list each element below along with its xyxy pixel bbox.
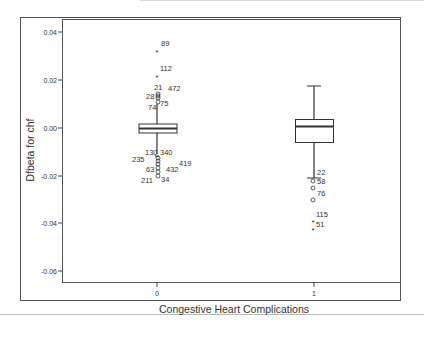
y-tick-label: -0.02 — [41, 173, 57, 180]
case-label: 63 — [146, 165, 154, 174]
case-label: 74 — [148, 103, 156, 112]
case-label: 472 — [168, 84, 181, 93]
y-tick-label: -0.04 — [41, 220, 57, 227]
case-label: 58 — [317, 177, 325, 186]
case-label: 34 — [161, 175, 169, 184]
y-tick-label: 0.04 — [43, 29, 57, 36]
y-tick-label: 0.02 — [43, 77, 57, 84]
case-label: 22 — [317, 168, 325, 177]
case-label: 432 — [166, 165, 179, 174]
boxplot-group-1 — [296, 86, 334, 178]
y-tick-label: -0.06 — [41, 268, 57, 275]
case-label: 76 — [317, 189, 325, 198]
case-labels-group-0: 89 112 21 472 28 74 75 130 340 235 419 6… — [132, 39, 192, 185]
case-label: 419 — [179, 159, 192, 168]
case-label: 51 — [316, 220, 324, 229]
y-axis-title: Dfbeta for chf — [24, 118, 36, 181]
case-label: 235 — [132, 155, 145, 164]
case-label: 28 — [146, 92, 154, 101]
case-label: 115 — [316, 210, 328, 219]
case-label: 340 — [160, 148, 173, 157]
outliers-group-1: * * — [311, 179, 315, 235]
case-label: 112 — [160, 64, 172, 73]
x-tick-label: 0 — [155, 290, 159, 297]
iqr-box — [296, 120, 334, 143]
y-tick-label: 0.00 — [43, 125, 57, 132]
extreme-marker: * — [155, 73, 158, 82]
y-tick-labels: 0.04 0.02 0.00 -0.02 -0.04 -0.06 — [41, 29, 57, 275]
chart-frame — [21, 18, 401, 301]
extreme-marker: * — [155, 48, 158, 57]
case-label: 130 — [145, 148, 158, 157]
case-label: 89 — [161, 39, 169, 48]
case-labels-group-1: 22 58 76 115 51 — [316, 168, 328, 229]
x-axis-title: Congestive Heart Complications — [159, 303, 309, 315]
case-label: 211 — [141, 176, 153, 185]
extreme-marker: * — [311, 226, 314, 235]
case-label: 21 — [154, 83, 162, 92]
plot-area — [63, 20, 401, 283]
x-tick-label: 1 — [312, 290, 316, 297]
boxplot-chart: 0.04 0.02 0.00 -0.02 -0.04 -0.06 Dfbeta … — [0, 0, 424, 338]
case-label: 75 — [160, 99, 168, 108]
y-axis — [58, 32, 62, 271]
